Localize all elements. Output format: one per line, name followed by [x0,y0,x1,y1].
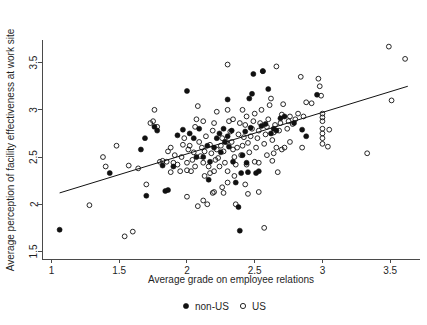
data-point [193,124,198,129]
data-point [144,182,149,187]
data-point [138,147,143,152]
data-point [320,136,325,141]
data-point [403,56,408,61]
data-point [210,128,215,133]
data-point [209,151,214,156]
data-point [231,159,236,164]
data-point [263,132,268,137]
data-point [193,164,198,169]
data-point [266,117,271,122]
legend-label-non-us: non-US [195,301,229,312]
data-point [126,163,131,168]
data-point [225,134,230,139]
data-point [233,162,238,167]
data-point [202,174,207,179]
data-point [244,114,249,119]
data-point [237,121,242,126]
data-point [205,202,210,207]
data-point [233,180,238,185]
data-point [201,119,206,124]
data-point [240,107,245,112]
data-point [251,71,256,76]
legend-label-us: US [252,301,266,312]
data-point [202,149,207,154]
x-axis-title: Average grade on employee relations [148,274,314,285]
data-point [246,191,251,196]
data-point [237,228,242,233]
data-point [250,91,255,96]
data-point [201,198,206,203]
data-point [225,107,230,112]
data-point [325,144,330,149]
data-point [247,96,252,101]
data-point [168,145,173,150]
data-point [187,131,192,136]
data-point [225,62,230,67]
data-point [201,160,206,165]
trendline [60,86,408,193]
data-point [195,104,200,109]
data-point [212,121,217,126]
data-point [114,143,119,148]
data-point [225,180,230,185]
data-point [296,111,301,116]
data-point [185,160,190,165]
data-point [204,134,209,139]
legend: non-US US [183,301,266,312]
data-point [185,194,190,199]
data-point [316,76,321,81]
data-point [175,162,180,167]
series-us [87,44,407,239]
data-point [181,142,186,147]
scatter-plot-figure: 1.522.533.5 11.522.533.5 Average grade o… [0,0,427,325]
data-point [182,136,187,141]
plot-svg: 1.522.533.5 11.522.533.5 Average grade o… [0,0,427,325]
data-point [206,177,211,182]
data-point [274,145,279,150]
y-axis-title: Average perception of facility effective… [5,28,16,271]
data-point [288,140,293,145]
data-point [101,155,106,160]
data-point [270,138,275,143]
data-point [240,143,245,148]
data-point [152,107,157,112]
data-point [243,123,248,128]
data-point [270,158,275,163]
data-point [254,145,259,150]
data-point [236,132,241,137]
data-point [247,150,252,155]
y-axis-ticks: 1.522.533.5 [29,55,43,258]
data-point [386,44,391,49]
data-point [281,102,286,107]
data-point [212,190,217,195]
y-tick-label: 3 [29,107,40,113]
data-point [197,140,202,145]
data-point [256,169,261,174]
data-point [178,169,183,174]
data-point [220,185,225,190]
data-point [285,126,290,131]
data-point [217,164,222,169]
data-point [191,136,196,141]
data-point [184,88,189,93]
data-point [300,127,305,132]
data-point [298,74,303,79]
data-point [217,131,222,136]
data-point [239,171,244,176]
data-point [317,84,322,89]
data-point [214,136,219,141]
data-point [365,151,370,156]
data-point [266,87,271,92]
y-tick-label: 2 [29,201,40,207]
data-point [255,136,260,141]
data-point [274,64,279,69]
data-point [243,129,248,134]
data-point [320,141,325,146]
x-tick-label: 1.5 [112,265,126,276]
data-point [225,97,230,102]
y-tick-label: 3.5 [29,55,40,69]
data-point [168,170,173,175]
data-point [327,127,332,132]
data-point [233,202,238,207]
data-point [251,119,256,124]
